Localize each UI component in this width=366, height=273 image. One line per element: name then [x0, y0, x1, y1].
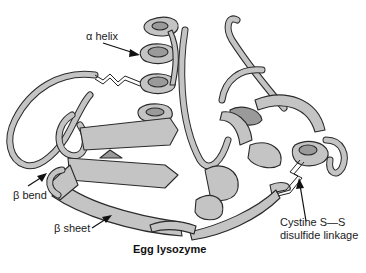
disulfide-bond-upper [95, 74, 140, 82]
left-loop [10, 74, 95, 166]
beta-sheet-label: β sheet [54, 222, 90, 234]
alpha-helix-label: α helix [86, 30, 118, 42]
diagram-title: Egg lysozyme [133, 243, 206, 255]
disulfide-label-line2: disulfide linkage [280, 229, 358, 241]
disulfide-label-line1: Cystine S—S [280, 216, 345, 228]
alpha-helix [138, 17, 178, 122]
beta-bend-label: β bend [13, 189, 47, 201]
